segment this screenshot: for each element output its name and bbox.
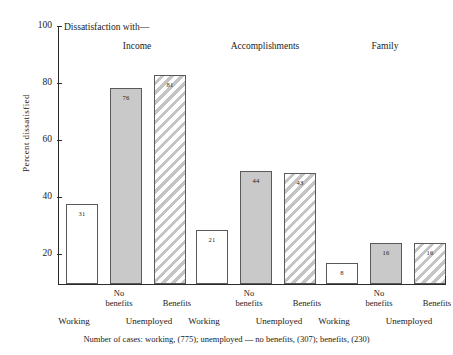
bar-value-family-working: 8 (327, 269, 357, 276)
xlabel-income-working: Working (36, 316, 112, 326)
xlabel-accomplishments-benefits: Benefits (274, 298, 340, 308)
bar-value-income-working: 31 (67, 210, 97, 217)
bar-income-benefits: 81 (154, 75, 186, 284)
xlabel-family-unemployed: Unemployed (364, 316, 453, 326)
bar-accomplishments-no-benefits: 44 (240, 171, 272, 285)
xlabel-accomplishments-no-benefits: No benefits (216, 288, 282, 308)
xlabel-accomplishments-working: Working (166, 316, 242, 326)
y-tick-label-100: 100 (38, 20, 57, 30)
xlabel-line-2: benefits (346, 298, 412, 308)
xlabel-line-2: benefits (216, 298, 282, 308)
xlabel-line-1: No (346, 288, 412, 298)
bar-accomplishments-working: 21 (196, 230, 228, 284)
bar-family-working: 8 (326, 263, 358, 284)
x-axis-line (58, 284, 446, 285)
bar-value-family-benefits: 16 (415, 249, 445, 256)
xlabel-line-2: benefits (86, 298, 152, 308)
bar-value-accomplishments-no-benefits: 44 (241, 177, 271, 184)
bar-family-no-benefits: 16 (370, 243, 402, 284)
bar-value-income-benefits: 81 (155, 81, 185, 88)
bar-value-accomplishments-working: 21 (197, 236, 227, 243)
footer-note: Number of cases: working, (775); unemplo… (0, 334, 453, 344)
y-axis-title: Percent dissatisfied (21, 53, 31, 213)
xlabel-family-benefits: Benefits (404, 298, 453, 308)
xlabel-income-benefits: Benefits (144, 298, 210, 308)
bar-value-accomplishments-benefits: 43 (285, 179, 315, 186)
bar-income-working: 31 (66, 204, 98, 284)
bar-accomplishments-benefits: 43 (284, 173, 316, 284)
bar-value-family-no-benefits: 16 (371, 249, 401, 256)
y-tick-label-40: 40 (43, 191, 58, 201)
xlabel-line-1: No (86, 288, 152, 298)
xlabel-line-1: No (216, 288, 282, 298)
bar-family-benefits: 16 (414, 243, 446, 284)
x-axis-right-cap (445, 276, 446, 285)
y-tick-label-80: 80 (43, 77, 58, 87)
xlabel-income-no-benefits: No benefits (86, 288, 152, 308)
xlabel-family-no-benefits: No benefits (346, 288, 412, 308)
plot-area: 31 76 81 21 44 43 8 16 16 (58, 26, 446, 284)
xlabel-family-working: Working (296, 316, 372, 326)
y-tick-label-20: 20 (43, 248, 58, 258)
bar-income-no-benefits: 76 (110, 88, 142, 284)
bar-chart-figure: Percent dissatisfied 100 80 60 40 20 Dis… (0, 0, 453, 355)
y-tick-label-60: 60 (43, 134, 58, 144)
bar-value-income-no-benefits: 76 (111, 94, 141, 101)
